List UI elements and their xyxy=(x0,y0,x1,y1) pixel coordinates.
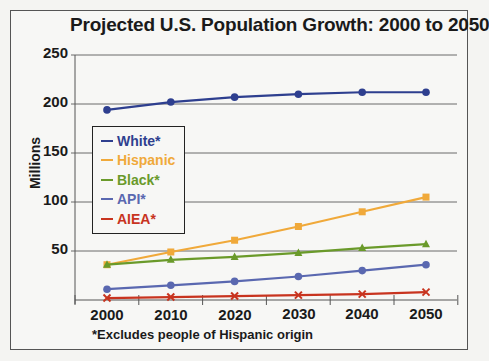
x-tick-2020: 2020 xyxy=(210,306,260,323)
data-point-marker xyxy=(358,88,366,96)
legend-label-hispanic: Hispanic xyxy=(117,152,175,168)
data-point-marker xyxy=(295,90,303,98)
x-tick-2050: 2050 xyxy=(401,305,451,322)
data-point-marker xyxy=(231,93,239,101)
legend-label-white: White* xyxy=(117,133,161,149)
legend-swatch-black xyxy=(101,179,113,181)
data-point-marker xyxy=(422,88,430,96)
x-tick-2010: 2010 xyxy=(146,306,196,323)
data-point-marker xyxy=(231,278,239,286)
legend-item-aiea: AIEA* xyxy=(101,209,184,229)
legend-item-black: Black* xyxy=(101,170,184,190)
data-point-marker xyxy=(167,98,175,106)
data-point-marker xyxy=(167,282,175,290)
legend-label-api: API* xyxy=(117,191,146,207)
legend-swatch-aiea xyxy=(101,218,113,220)
data-point-marker xyxy=(231,237,238,244)
data-point-marker xyxy=(359,208,366,215)
legend-item-api: API* xyxy=(101,190,184,210)
legend-label-black: Black* xyxy=(117,172,160,188)
data-point-marker xyxy=(103,106,111,114)
series-line-api xyxy=(107,265,426,290)
data-point-marker xyxy=(103,285,111,293)
data-point-marker xyxy=(423,194,430,201)
legend-swatch-white xyxy=(101,140,113,142)
x-tick-2000: 2000 xyxy=(82,306,132,323)
series-line-white xyxy=(107,92,426,110)
x-tick-2030: 2030 xyxy=(274,305,324,322)
legend-item-white: White* xyxy=(101,131,184,151)
data-point-marker xyxy=(422,261,430,269)
legend: White* Hispanic Black* API* AIEA* xyxy=(92,126,185,234)
x-tick-2040: 2040 xyxy=(337,305,387,322)
data-point-marker xyxy=(295,273,303,281)
data-point-marker xyxy=(295,223,302,230)
footnote: *Excludes people of Hispanic origin xyxy=(92,327,313,342)
legend-swatch-hispanic xyxy=(101,159,113,161)
legend-label-aiea: AIEA* xyxy=(117,211,156,227)
data-point-marker xyxy=(167,248,174,255)
legend-item-hispanic: Hispanic xyxy=(101,151,184,171)
legend-swatch-api xyxy=(101,198,113,200)
data-point-marker xyxy=(358,267,366,275)
